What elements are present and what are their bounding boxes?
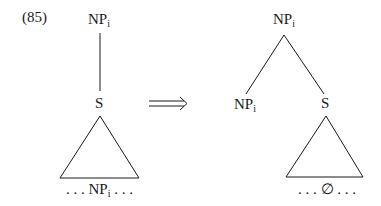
- left-terminal-prefix: . . .: [66, 181, 89, 197]
- right-s-node: S: [321, 96, 329, 111]
- right-np-child-node: NPi: [234, 97, 256, 114]
- right-np-child-subscript: i: [253, 103, 256, 114]
- left-root-label: NP: [88, 11, 107, 27]
- double-arrow-icon: [149, 97, 187, 110]
- left-terminal-string: . . . NPi . . .: [66, 182, 133, 199]
- left-triangle: [60, 116, 139, 178]
- left-root-node: NPi: [88, 12, 110, 29]
- left-terminal-suffix: . . .: [110, 181, 133, 197]
- left-terminal-label: NP: [89, 181, 108, 197]
- left-root-subscript: i: [107, 18, 110, 29]
- right-root-label: NP: [273, 11, 292, 27]
- left-s-node: S: [95, 96, 103, 111]
- right-triangle: [286, 116, 363, 177]
- right-np-child-label: NP: [234, 96, 253, 112]
- right-root-to-s-branch: [284, 35, 324, 94]
- right-terminal-string: . . . ∅ . . .: [298, 182, 356, 197]
- right-root-subscript: i: [292, 18, 295, 29]
- example-number: (85): [22, 10, 47, 25]
- right-root-to-np-branch: [246, 35, 284, 94]
- right-root-node: NPi: [273, 12, 295, 29]
